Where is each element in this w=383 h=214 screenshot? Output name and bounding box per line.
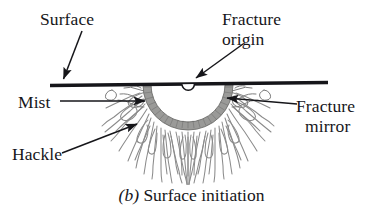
label-mist: Mist <box>18 92 51 112</box>
hackle-lines <box>102 92 274 185</box>
label-fracture-mirror-line1: Fracture <box>296 96 355 116</box>
label-hackle: Hackle <box>12 144 62 164</box>
fracture-origin-notch <box>182 84 194 90</box>
figure-caption-text: Surface initiation <box>139 185 264 205</box>
label-fracture-mirror: Fracture mirror <box>296 96 355 136</box>
fracture-surface-initiation-figure: Surface Fracture origin Mist Hackle Frac… <box>0 0 383 214</box>
hackle-leader-arrow <box>62 124 137 153</box>
surface-leader-arrow <box>64 31 83 79</box>
label-fracture-mirror-line2: mirror <box>296 116 355 136</box>
label-surface: Surface <box>40 9 94 29</box>
label-fracture-origin-line2: origin <box>222 29 281 49</box>
figure-caption-index: (b) <box>119 185 139 205</box>
label-fracture-origin-line1: Fracture <box>222 9 281 29</box>
figure-caption: (b) Surface initiation <box>0 184 383 206</box>
fracture-origin-leader-arrow <box>196 44 243 78</box>
label-fracture-origin: Fracture origin <box>222 9 281 49</box>
